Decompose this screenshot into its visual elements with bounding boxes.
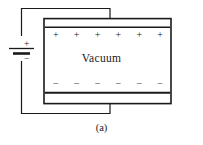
charge-symbol: + <box>136 30 142 40</box>
charge-symbol: + <box>74 30 80 40</box>
charge-symbol: − <box>136 79 142 89</box>
charge-symbol: − <box>157 79 163 89</box>
charge-symbol: − <box>116 79 122 89</box>
charge-symbol: − <box>53 79 59 89</box>
charge-symbol: + <box>53 30 59 40</box>
charge-symbol: − <box>74 79 80 89</box>
positive-charge-row: + + + + + + <box>45 30 171 40</box>
dielectric-label: Vacuum <box>0 52 203 64</box>
figure-caption: (a) <box>0 122 203 133</box>
charge-symbol: + <box>95 30 101 40</box>
charge-symbol: + <box>157 30 163 40</box>
battery-positive-terminal-label: + <box>24 40 29 50</box>
charge-symbol: + <box>116 30 122 40</box>
negative-charge-row: − − − − − − <box>45 79 171 89</box>
battery-negative-terminal-label: − <box>24 55 29 65</box>
charge-symbol: − <box>95 79 101 89</box>
capacitor-figure: Vacuum (a) + − + + + + + + − − − − − − <box>0 0 203 145</box>
